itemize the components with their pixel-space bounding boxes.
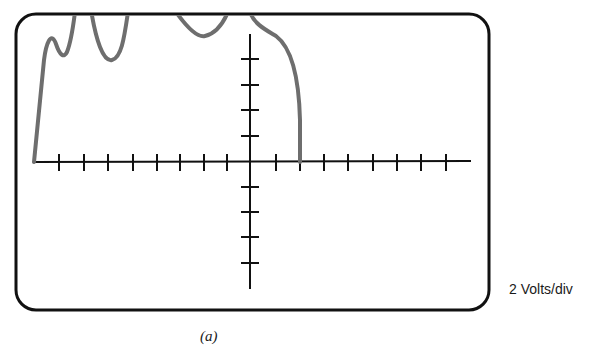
volts-per-division-label: 2 Volts/div	[509, 281, 573, 297]
figure-caption: (a)	[200, 328, 218, 345]
signal-trace	[34, 10, 300, 162]
horizontal-axis	[33, 154, 471, 171]
